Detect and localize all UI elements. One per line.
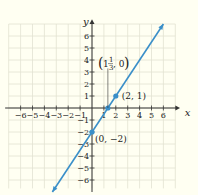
svg-text:): ) [124, 55, 129, 71]
point-label-2-1: (2, 1) [122, 91, 146, 101]
y-axis-arrow-icon [90, 19, 95, 24]
y-axis-label: y [82, 16, 89, 27]
x-axis-label: x [185, 107, 191, 118]
point-label-x-intercept: (113, 0) [98, 55, 129, 72]
data-point [113, 93, 118, 98]
x-tick-label: −4 [39, 111, 51, 120]
x-tick-label: 6 [161, 111, 166, 120]
y-tick-label: −6 [77, 176, 89, 185]
y-tick-label: 6 [84, 32, 89, 41]
x-tick-label: 4 [137, 111, 142, 120]
x-tick-label: 2 [113, 111, 118, 120]
x-tick-label: −2 [62, 111, 74, 120]
y-tick-label: −1 [77, 116, 89, 125]
y-tick-label: 3 [84, 68, 89, 77]
y-tick-label: −5 [77, 164, 89, 173]
svg-text:1: 1 [103, 59, 109, 69]
y-tick-label: 4 [84, 56, 89, 65]
y-tick-label: 1 [84, 92, 89, 101]
point-label-0-neg2: (0, −2) [95, 134, 127, 144]
data-point [89, 129, 94, 134]
x-tick-label: −6 [15, 111, 27, 120]
y-tick-label: −4 [77, 152, 89, 161]
x-tick-label: 5 [149, 111, 154, 120]
x-tick-label: −3 [50, 111, 62, 120]
x-tick-label: 3 [125, 111, 130, 120]
x-tick-label: −5 [27, 111, 39, 120]
svg-text:, 0: , 0 [113, 59, 125, 69]
x-axis-arrow-icon [175, 106, 180, 111]
y-tick-label: 5 [84, 44, 89, 53]
y-tick-label: −2 [77, 128, 89, 137]
y-tick-label: 2 [84, 80, 89, 89]
coordinate-plane: xy−6−5−4−3−2−1123456654321−1−2−3−4−5−6(2… [0, 0, 198, 195]
